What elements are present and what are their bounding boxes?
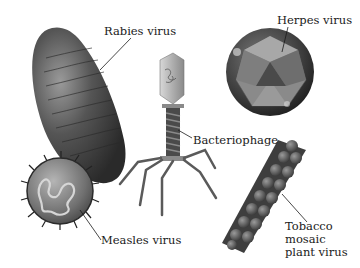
bacteriophage-label: Bacteriophage [193, 134, 278, 146]
herpes-virus-label: Herpes virus [277, 14, 352, 26]
measles-leader-line [80, 210, 101, 240]
tobacco-label-line1: Tobacco [285, 220, 333, 232]
tobacco-label-line2: mosaic [285, 233, 326, 245]
rabies-virus-label: Rabies virus [104, 25, 176, 37]
tobacco-leader-line [282, 194, 307, 222]
measles-virus-label: Measles virus [101, 234, 181, 246]
virus-figure: Rabies virus Herpes virus Bacteriophage … [0, 0, 360, 268]
herpes-virus-shape [226, 28, 314, 116]
bacteriophage-leader-line [178, 130, 192, 138]
rabies-leader-line [100, 38, 131, 70]
tobacco-label-line3: plant virus [285, 246, 348, 258]
